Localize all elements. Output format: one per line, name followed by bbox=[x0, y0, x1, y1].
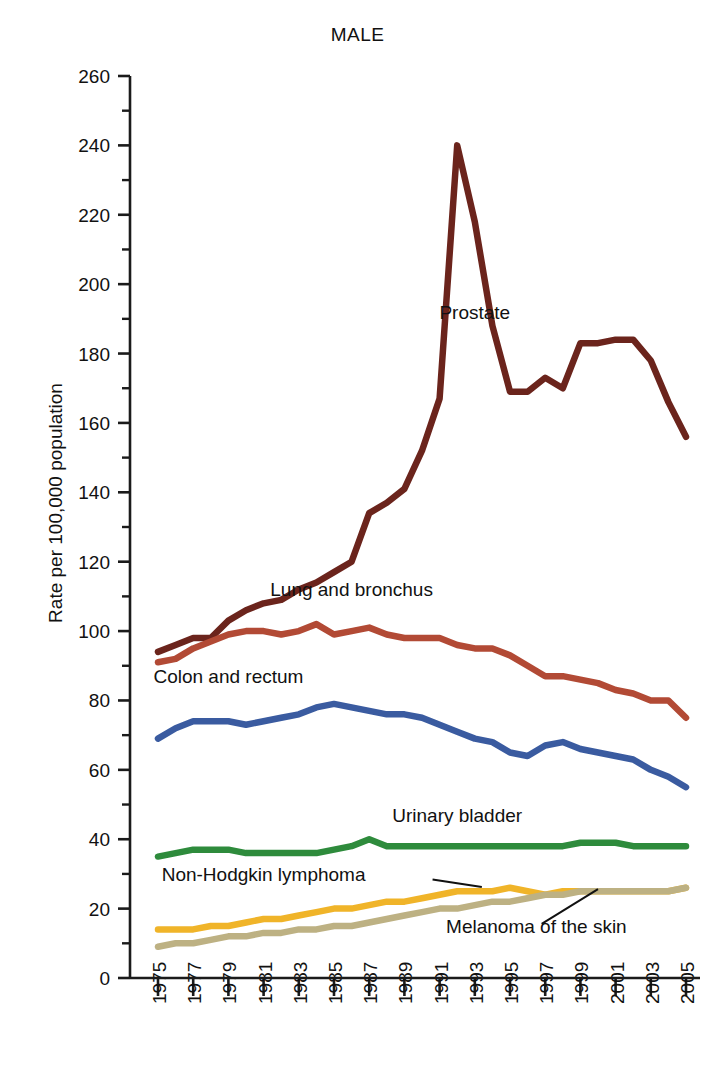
y-axis-ticks: 020406080100120140160180200220240260 bbox=[78, 66, 130, 989]
x-tick-label: 1985 bbox=[325, 962, 346, 1004]
chart-figure: MALE Rate per 100,000 population 0204060… bbox=[0, 0, 715, 1076]
x-tick-label: 1981 bbox=[255, 962, 276, 1004]
y-tick-label: 220 bbox=[78, 205, 110, 226]
data-series-group bbox=[158, 145, 686, 946]
series-label-lung-and-bronchus: Lung and bronchus bbox=[270, 579, 433, 600]
y-tick-label: 240 bbox=[78, 135, 110, 156]
y-tick-label: 0 bbox=[99, 968, 110, 989]
x-tick-label: 1977 bbox=[184, 962, 205, 1004]
nhl-leader-line bbox=[433, 879, 482, 887]
y-tick-label: 100 bbox=[78, 621, 110, 642]
y-tick-label: 80 bbox=[89, 690, 110, 711]
series-line-urinary-bladder bbox=[158, 839, 686, 856]
y-tick-label: 40 bbox=[89, 829, 110, 850]
series-label-melanoma-of-the-skin: Melanoma of the skin bbox=[446, 916, 627, 937]
x-tick-label: 1975 bbox=[149, 962, 170, 1004]
x-tick-label: 2005 bbox=[677, 962, 698, 1004]
x-tick-label: 1987 bbox=[360, 962, 381, 1004]
x-tick-label: 1983 bbox=[290, 962, 311, 1004]
series-label-non-hodgkin-lymphoma: Non-Hodgkin lymphoma bbox=[162, 864, 366, 885]
x-tick-label: 1979 bbox=[219, 962, 240, 1004]
series-line-prostate bbox=[158, 145, 686, 652]
x-tick-label: 1991 bbox=[431, 962, 452, 1004]
series-label-prostate: Prostate bbox=[439, 302, 510, 323]
y-tick-label: 120 bbox=[78, 552, 110, 573]
series-labels-group: ProstateLung and bronchusColon and rectu… bbox=[153, 302, 626, 937]
y-tick-label: 180 bbox=[78, 344, 110, 365]
series-line-colon-and-rectum bbox=[158, 704, 686, 787]
x-tick-label: 1997 bbox=[536, 962, 557, 1004]
x-tick-label: 1999 bbox=[571, 962, 592, 1004]
y-tick-label: 160 bbox=[78, 413, 110, 434]
x-tick-label: 2003 bbox=[642, 962, 663, 1004]
x-axis-ticks: 1975197719791981198319851987198919911993… bbox=[149, 962, 698, 1004]
x-tick-label: 1993 bbox=[466, 962, 487, 1004]
series-label-urinary-bladder: Urinary bladder bbox=[392, 805, 523, 826]
x-tick-label: 1989 bbox=[395, 962, 416, 1004]
y-tick-label: 20 bbox=[89, 899, 110, 920]
series-label-colon-and-rectum: Colon and rectum bbox=[153, 666, 303, 687]
x-tick-label: 1995 bbox=[501, 962, 522, 1004]
y-tick-label: 260 bbox=[78, 66, 110, 87]
y-tick-label: 60 bbox=[89, 760, 110, 781]
y-tick-label: 140 bbox=[78, 482, 110, 503]
plot-area: 020406080100120140160180200220240260 197… bbox=[0, 0, 715, 1076]
y-tick-label: 200 bbox=[78, 274, 110, 295]
x-tick-label: 2001 bbox=[607, 962, 628, 1004]
